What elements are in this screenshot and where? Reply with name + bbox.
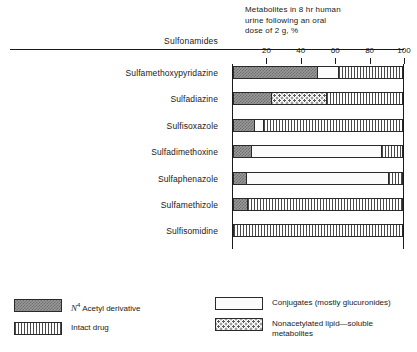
- bar-row: [233, 119, 403, 132]
- legend-item-acetyl-derivative: N4 Acetyl derivative: [14, 299, 140, 314]
- bar-segment-acetyl-derivative: [234, 199, 247, 210]
- legend-swatch-nonacetylated: [215, 318, 263, 331]
- bar-row: [233, 224, 403, 237]
- bar-row: [233, 92, 403, 105]
- category-label: Sulfisomidine: [0, 226, 218, 236]
- legend-label-acetyl-derivative: N4 Acetyl derivative: [71, 299, 140, 314]
- category-label: Sulfadimethoxine: [0, 147, 218, 157]
- category-axis-title: Sulfonamides: [0, 36, 218, 46]
- x-axis-tick-label: 40: [296, 46, 305, 55]
- x-axis-tick-label: 60: [331, 46, 340, 55]
- bar-segment-intact-drug: [234, 225, 402, 236]
- bar-segment-nonacetylated-metabolites: [271, 93, 327, 104]
- bar-row: [233, 66, 403, 79]
- legend-label-acetyl-rest: Acetyl derivative: [80, 304, 140, 313]
- legend-label-intact-drug: Intact drug: [71, 322, 109, 333]
- legend-swatch-conjugates: [215, 297, 263, 310]
- x-axis-tick-mark: [404, 58, 405, 64]
- x-axis-tick-label: 100: [397, 46, 410, 55]
- legend-swatch-acetyl-derivative: [14, 299, 62, 312]
- bar-segment-intact-drug: [388, 173, 402, 184]
- bar-segment-acetyl-derivative: [234, 146, 251, 157]
- bar-row: [233, 172, 403, 185]
- bar-segment-intact-drug: [381, 146, 402, 157]
- chart-legend: N4 Acetyl derivative Intact drug Conjuga…: [0, 295, 417, 347]
- plot-area: [232, 64, 404, 249]
- bar-segment-acetyl-derivative: [234, 173, 246, 184]
- bar-segment-intact-drug: [326, 93, 402, 104]
- legend-item-nonacetylated: Nonacetylated lipid—soluble metabolites: [215, 318, 373, 339]
- bar-row: [233, 198, 403, 211]
- x-axis-tick-labels: 20406080100: [232, 46, 404, 58]
- bar-segment-conjugates: [317, 67, 338, 78]
- bar-segment-conjugates: [254, 120, 263, 131]
- bar-segment-intact-drug: [338, 67, 402, 78]
- bar-segment-intact-drug: [263, 120, 402, 131]
- bar-segment-acetyl-derivative: [234, 93, 271, 104]
- bar-row: [233, 145, 403, 158]
- x-axis-tick-label: 20: [262, 46, 271, 55]
- category-label: Sulfisoxazole: [0, 121, 218, 131]
- x-axis-tick-label: 80: [365, 46, 374, 55]
- legend-label-nonacetylated: Nonacetylated lipid—soluble metabolites: [272, 318, 373, 339]
- legend-label-conjugates: Conjugates (mostly glucuronides): [272, 297, 391, 308]
- category-labels: SulfamethoxypyridazineSulfadiazineSulfis…: [0, 64, 218, 249]
- bar-segment-acetyl-derivative: [234, 120, 254, 131]
- legend-item-intact-drug: Intact drug: [14, 322, 109, 335]
- category-label: Sulfamethoxypyridazine: [0, 68, 218, 78]
- category-label: Sulfaphenazole: [0, 174, 218, 184]
- category-label: Sulfamethizole: [0, 200, 218, 210]
- bar-segment-conjugates: [246, 173, 388, 184]
- category-label: Sulfadiazine: [0, 94, 218, 104]
- chart-header-note: Metabolites in 8 hr human urine followin…: [245, 5, 410, 37]
- bar-segment-conjugates: [251, 146, 382, 157]
- legend-swatch-intact-drug: [14, 322, 62, 335]
- bar-segment-intact-drug: [247, 199, 402, 210]
- legend-item-conjugates: Conjugates (mostly glucuronides): [215, 297, 391, 310]
- bar-segment-acetyl-derivative: [234, 67, 317, 78]
